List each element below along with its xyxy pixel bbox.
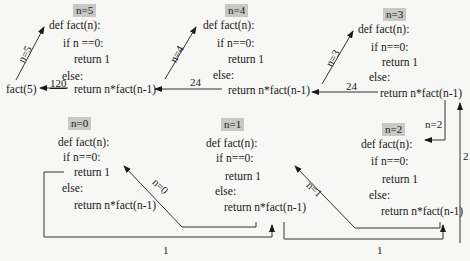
code-line: def fact(n): [361,138,412,151]
code-line: def fact(n): [58,136,109,149]
edge-label-return: 24 [346,80,357,92]
code-line: if n ==0: [63,37,103,50]
code-line: else: [215,185,236,198]
frame-label-n4: n=4 [225,4,248,17]
initial-call: fact(5) [6,83,37,96]
code-line: else: [62,182,83,195]
frame-label-n2: n=2 [382,123,405,136]
code-line: def fact(n): [203,19,254,32]
code-line: if n==0: [63,151,101,164]
edge-label-call: n=2 [425,118,442,130]
code-line: return 1 [225,170,261,183]
edge-label-return: 1 [377,244,383,256]
code-line: else: [369,71,390,84]
code-line: return n*fact(n-1) [74,199,156,212]
code-line: def fact(n): [49,19,100,32]
edge-label-return: 1 [163,244,169,256]
code-line: else: [213,69,234,82]
code-line: return 1 [74,166,110,179]
code-line: if n==0: [371,155,409,168]
code-line: return n*fact(n-1) [74,83,156,96]
code-line: return n*fact(n-1) [381,205,463,218]
code-line: def fact(n): [206,137,257,150]
code-line: return n*fact(n-1) [380,87,462,100]
frame-label-n5: n=5 [73,4,96,17]
edge-label-return: 2 [463,150,469,162]
edge-label-return: 24 [190,76,201,88]
frame-label-n1: n=1 [221,118,244,131]
code-line: return 1 [74,53,110,66]
code-line: else: [369,189,390,202]
frame-label-n0: n=0 [68,117,91,130]
code-line: return 1 [382,173,418,186]
code-line: return 1 [228,53,264,66]
code-line: if n==0: [217,37,255,50]
edge-label-return: 120 [50,77,67,89]
code-line: return n*fact(n-1) [228,84,310,97]
code-line: def fact(n): [358,23,409,36]
frame-label-n3: n=3 [383,8,406,21]
code-line: return n*fact(n-1) [224,201,306,214]
code-line: if n==0: [371,41,409,54]
code-line: if n==0: [216,152,254,165]
code-line: return 1 [382,56,418,69]
